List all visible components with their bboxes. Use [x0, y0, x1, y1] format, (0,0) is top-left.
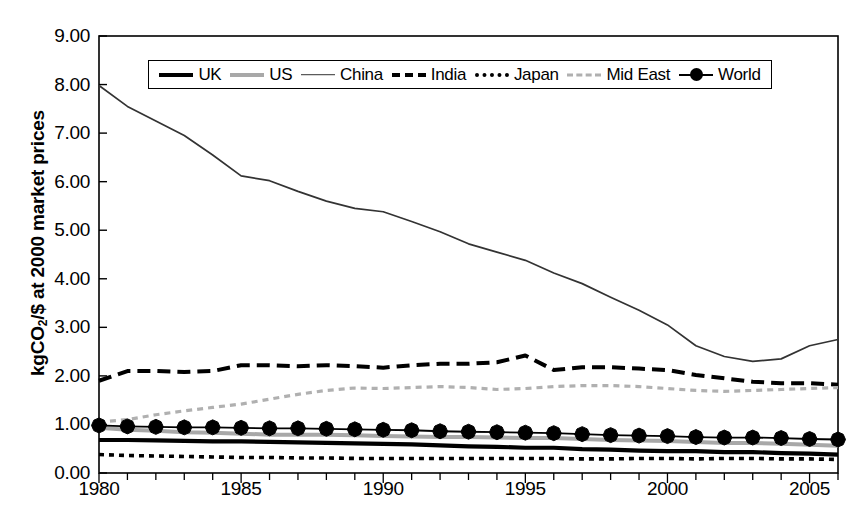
series-marker-world — [489, 425, 504, 440]
series-marker-world — [290, 421, 305, 436]
series-marker-world — [546, 426, 561, 441]
series-marker-world — [774, 431, 789, 446]
series-marker-world — [518, 425, 533, 440]
legend-item-uk[interactable]: UK — [159, 65, 221, 85]
legend-item-mid-east[interactable]: Mid East — [567, 65, 670, 85]
series-marker-world — [319, 421, 334, 436]
line-diamond-marker-swatch — [679, 68, 713, 82]
series-marker-world — [92, 418, 107, 433]
line-solid-thick-black-swatch — [159, 68, 193, 82]
series-marker-world — [717, 430, 732, 445]
series-marker-world — [347, 422, 362, 437]
series-marker-world — [120, 419, 135, 434]
line-dotted-black-swatch — [475, 68, 509, 82]
legend-item-world[interactable]: World — [679, 65, 761, 85]
legend-item-label: US — [269, 65, 292, 85]
series-marker-world — [262, 421, 277, 436]
series-marker-world — [660, 429, 675, 444]
series-marker-world — [688, 430, 703, 445]
legend-item-china[interactable]: China — [301, 65, 383, 85]
series-marker-world — [433, 424, 448, 439]
line-solid-thick-gray-swatch — [230, 68, 264, 82]
series-marker-world — [831, 432, 846, 447]
line-dashed-black-swatch — [392, 68, 426, 82]
series-marker-world — [205, 420, 220, 435]
series-marker-world — [745, 430, 760, 445]
series-line-china — [99, 86, 838, 362]
legend-item-label: World — [718, 65, 761, 85]
series-marker-world — [177, 420, 192, 435]
legend-item-label: UK — [198, 65, 221, 85]
legend-item-label: Japan — [514, 65, 559, 85]
legend-item-label: China — [340, 65, 383, 85]
series-marker-world — [575, 427, 590, 442]
legend-item-label: India — [431, 65, 466, 85]
legend-item-japan[interactable]: Japan — [475, 65, 559, 85]
series-marker-world — [376, 422, 391, 437]
series-marker-world — [461, 424, 476, 439]
legend-item-india[interactable]: India — [392, 65, 466, 85]
chart-legend: UKUSChinaIndiaJapanMid EastWorld — [148, 60, 772, 89]
line-solid-thin-black-swatch — [301, 68, 335, 82]
series-line-mid-east — [99, 386, 838, 422]
series-line-japan — [99, 455, 838, 460]
series-marker-world — [603, 428, 618, 443]
series-marker-world — [234, 420, 249, 435]
series-marker-world — [148, 419, 163, 434]
series-line-india — [99, 355, 838, 384]
legend-item-us[interactable]: US — [230, 65, 292, 85]
series-marker-world — [632, 428, 647, 443]
legend-item-label: Mid East — [606, 65, 670, 85]
series-marker-world — [404, 423, 419, 438]
series-marker-world — [802, 432, 817, 447]
line-dashed-gray-swatch — [567, 68, 601, 82]
emissions-intensity-line-chart: kgCO2/$ at 2000 market prices 0.001.002.… — [0, 0, 858, 532]
